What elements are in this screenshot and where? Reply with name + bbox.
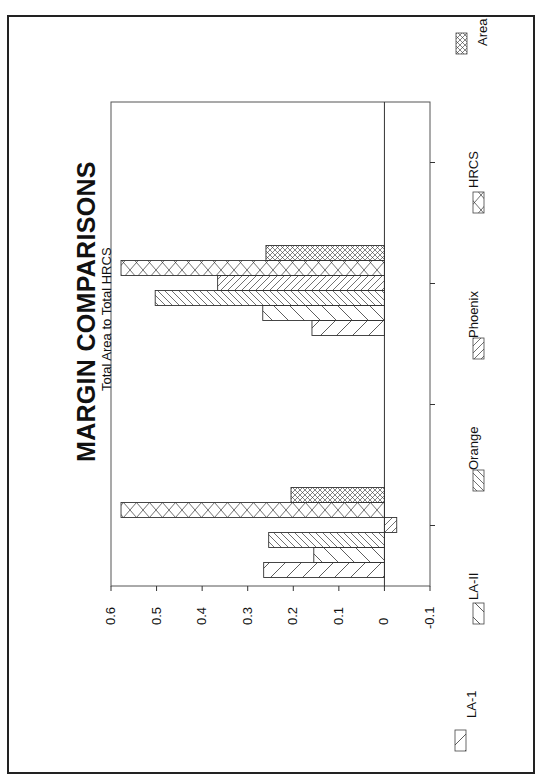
bar-la-ii — [263, 306, 385, 321]
bar-hrcs — [121, 503, 384, 518]
legend-label-area: Area — [475, 19, 490, 46]
bar-phoenix — [218, 276, 385, 291]
legend-label-orange: Orange — [466, 427, 481, 470]
bar-phoenix — [384, 518, 396, 533]
bar-la-1 — [264, 563, 385, 578]
tick-label: 0.1 — [331, 607, 346, 625]
chart-subtitle: Total Area to Total HRCS — [99, 247, 114, 391]
bar-area — [266, 246, 384, 261]
legend-label-la-1: LA-1 — [464, 691, 479, 718]
legend-swatch-orange — [473, 470, 484, 491]
tick-label: 0.4 — [194, 607, 209, 625]
bar-area — [291, 488, 384, 503]
legend-label-la-ii: LA-II — [466, 573, 481, 600]
tick-label: 0.3 — [240, 607, 255, 625]
chart-title: MARGIN COMPARISONS — [72, 161, 101, 462]
legend-swatch-hrcs — [473, 192, 484, 213]
legend-swatch-area — [456, 33, 467, 54]
legend-swatch-phoenix — [473, 338, 484, 359]
bar-la-1 — [312, 321, 384, 336]
legend-swatch-la-1 — [455, 730, 466, 751]
tick-label: 0.6 — [103, 607, 118, 625]
tick-label: -0.1 — [422, 607, 437, 629]
bar-hrcs — [121, 261, 384, 276]
bar-orange — [155, 291, 384, 306]
legend-swatch-la-ii — [473, 603, 484, 624]
plot-area — [111, 33, 484, 751]
tick-label: 0.2 — [285, 607, 300, 625]
tick-label: 0 — [376, 618, 391, 625]
tick-label: 0.5 — [149, 607, 164, 625]
bar-la-ii — [314, 548, 385, 563]
bar-orange — [269, 533, 385, 548]
legend-label-hrcs: HRCS — [466, 151, 481, 188]
legend-label-phoenix: Phoenix — [466, 291, 481, 338]
